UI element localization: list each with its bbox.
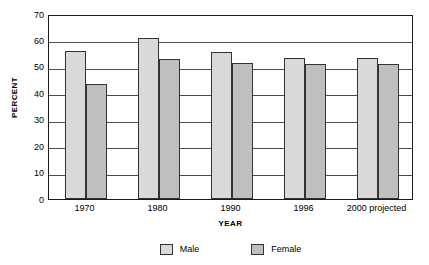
bar-groups: [49, 16, 412, 199]
bar-female-2000-projected: [378, 64, 399, 199]
plot-area: [48, 15, 413, 200]
bar-male-1980: [138, 38, 159, 199]
bar-male-1990: [211, 52, 232, 199]
y-axis-label: PERCENT: [10, 58, 19, 138]
y-tick-label: 50: [20, 63, 44, 72]
bar-male-2000-projected: [357, 58, 378, 199]
bar-male-1970: [65, 51, 86, 199]
legend-label: Female: [271, 244, 301, 254]
legend-swatch-female: [251, 244, 264, 255]
y-tick-label: 10: [20, 169, 44, 178]
x-tick-label: 1990: [220, 203, 240, 214]
bar-group: [195, 16, 268, 199]
y-tick-label: 40: [20, 90, 44, 99]
bar-group: [122, 16, 195, 199]
bar-group: [49, 16, 122, 199]
y-tick-label: 30: [20, 116, 44, 125]
legend-item-female[interactable]: Female: [251, 244, 301, 255]
chart-legend: MaleFemale: [48, 240, 413, 258]
x-tick-label: 1980: [147, 203, 167, 214]
x-tick-label: 2000 projected: [347, 203, 407, 214]
legend-item-male[interactable]: Male: [160, 244, 200, 255]
y-tick-label: 0: [20, 196, 44, 205]
bar-male-1996: [284, 58, 305, 199]
bar-group: [268, 16, 341, 199]
bar-female-1990: [232, 63, 253, 199]
y-tick-label: 70: [20, 11, 44, 20]
y-axis-tick-labels: 010203040506070: [20, 15, 44, 200]
y-tick-label: 60: [20, 37, 44, 46]
bar-female-1970: [86, 84, 107, 199]
legend-swatch-male: [160, 244, 173, 255]
x-tick-label: 1970: [74, 203, 94, 214]
y-tick-label: 20: [20, 143, 44, 152]
x-axis-label: YEAR: [48, 219, 413, 228]
bar-female-1980: [159, 59, 180, 199]
legend-label: Male: [180, 244, 200, 254]
bar-chart-figure: PERCENT 010203040506070 1970198019901996…: [0, 0, 429, 265]
bar-group: [341, 16, 414, 199]
bar-female-1996: [305, 64, 326, 199]
x-axis-tick-labels: 19701980199019962000 projected: [48, 203, 413, 219]
x-tick-label: 1996: [293, 203, 313, 214]
